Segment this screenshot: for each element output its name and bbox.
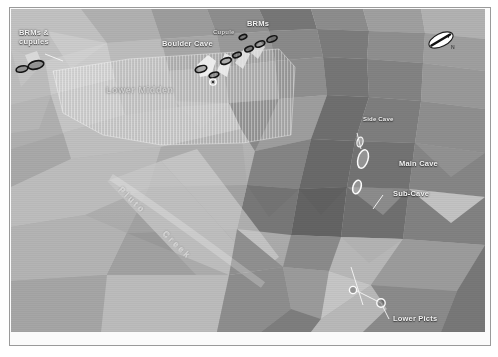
- label-boulder-cave: Boulder Cave: [162, 39, 213, 48]
- label-brms: BRMs: [247, 19, 269, 28]
- label-main-cave: Main Cave: [399, 159, 438, 168]
- label-sub-cave: Sub-Cave: [393, 189, 429, 198]
- terrain-facets: [11, 9, 485, 332]
- label-cupule: Cupule: [213, 29, 235, 36]
- map-figure: BRMs & cupules Boulder Cave Cupule BRMs …: [0, 0, 498, 357]
- north-arrow-icon: N: [424, 28, 458, 52]
- terrain-map-canvas[interactable]: BRMs & cupules Boulder Cave Cupule BRMs …: [11, 9, 485, 332]
- label-side-cave: Side Cave: [363, 116, 393, 123]
- label-brms-cupules: BRMs & cupules: [19, 28, 49, 46]
- terrain-surface: [11, 9, 485, 332]
- svg-text:N: N: [451, 44, 455, 50]
- label-lower-midden: Lower Midden: [106, 86, 174, 95]
- label-lower-picts: Lower Picts: [393, 314, 437, 323]
